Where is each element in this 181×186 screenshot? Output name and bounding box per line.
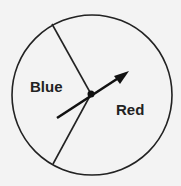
region-label-blue: Blue [30,78,63,95]
arrow-head-icon [114,71,129,84]
spinner-diagram: Blue Red [0,0,181,186]
region-label-red: Red [116,101,144,118]
spinner-arrow-shaft [57,77,120,118]
spinner-pivot [88,91,95,98]
divider-bottom [53,94,91,164]
